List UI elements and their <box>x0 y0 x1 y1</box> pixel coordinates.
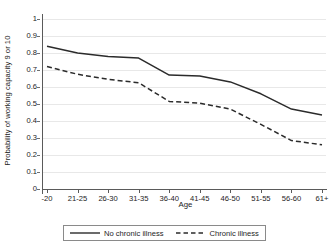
y-axis-tick-label: 0.5 <box>26 100 37 108</box>
y-axis-tick-label: 0.9 <box>26 32 37 40</box>
series-line-chronic-illness <box>47 67 322 145</box>
x-axis-tick-mark <box>230 189 231 193</box>
dashed-line-icon <box>176 229 206 237</box>
y-axis-tick-mark <box>37 121 40 122</box>
plot-area <box>43 19 326 189</box>
x-axis-tick-mark <box>200 189 201 193</box>
x-axis-tick-mark <box>139 189 140 193</box>
y-axis-tick-mark <box>37 36 40 37</box>
y-axis-tick-labels: 00.10.20.30.40.50.60.70.80.91 <box>14 0 40 200</box>
y-axis-tick-mark <box>37 70 40 71</box>
y-axis-tick-mark <box>37 87 40 88</box>
legend-entry: No chronic illness <box>70 229 164 238</box>
y-axis-title-text: Probability of working capacity 9 or 10 <box>4 35 13 165</box>
x-axis-tick-mark <box>78 189 79 193</box>
legend-label: No chronic illness <box>104 229 164 238</box>
y-axis-tick-label: 0.7 <box>26 66 37 74</box>
chart-legend: No chronic illnessChronic illness <box>63 225 266 241</box>
y-axis-tick-mark <box>37 19 40 20</box>
y-axis-tick-mark <box>37 53 40 54</box>
x-axis-tick-mark <box>169 189 170 193</box>
y-axis-tick-mark <box>37 189 40 190</box>
x-axis-tick-mark <box>261 189 262 193</box>
y-axis-tick-label: 0.4 <box>26 117 37 125</box>
series-line-no-chronic-illness <box>47 46 322 115</box>
x-axis-tick-mark <box>322 189 323 193</box>
y-axis-tick-label: 0.2 <box>26 151 37 159</box>
y-axis-tick-mark <box>37 155 40 156</box>
y-axis-tick-label: 0.3 <box>26 134 37 142</box>
legend-label: Chronic illness <box>210 229 259 238</box>
y-axis-tick-mark <box>37 138 40 139</box>
y-axis-tick-label: 0.1 <box>26 168 37 176</box>
x-axis-tick-mark <box>291 189 292 193</box>
y-axis-tick-mark <box>37 172 40 173</box>
series-lines <box>43 19 326 189</box>
legend-entry: Chronic illness <box>176 229 259 238</box>
y-axis-tick-mark <box>37 104 40 105</box>
x-axis-tick-mark <box>47 189 48 193</box>
solid-line-icon <box>70 229 100 237</box>
x-axis-title: Age <box>43 200 328 209</box>
chart-figure: Probability of working capacity 9 or 10 … <box>0 0 334 249</box>
y-axis-tick-label: 0.8 <box>26 49 37 57</box>
x-axis-tick-mark <box>108 189 109 193</box>
y-axis-tick-label: 0.6 <box>26 83 37 91</box>
